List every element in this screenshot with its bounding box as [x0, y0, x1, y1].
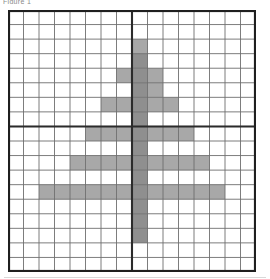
- branch-cell: [132, 39, 148, 54]
- branch-cell: [194, 185, 210, 200]
- trunk-cell: [132, 228, 148, 243]
- branch-cell: [86, 185, 102, 200]
- trunk-cell: [132, 126, 148, 141]
- grid-chart-svg: [8, 10, 256, 272]
- trunk-cell: [132, 83, 148, 98]
- branch-cell: [194, 156, 210, 171]
- branch-cell: [148, 97, 164, 112]
- branch-cell: [117, 126, 133, 141]
- branch-cell: [70, 156, 86, 171]
- figure-root: Figure 1: [0, 0, 270, 279]
- branch-cell: [101, 156, 117, 171]
- trunk-cell: [132, 185, 148, 200]
- branch-cell: [70, 185, 86, 200]
- branch-cell: [117, 185, 133, 200]
- branch-cell: [163, 97, 179, 112]
- branch-cell: [148, 126, 164, 141]
- branch-cell: [86, 126, 102, 141]
- branch-cell: [210, 185, 226, 200]
- trunk-cell: [132, 214, 148, 229]
- branch-cell: [163, 185, 179, 200]
- branch-cell: [179, 156, 195, 171]
- branch-cell: [163, 156, 179, 171]
- trunk-cell: [132, 54, 148, 69]
- branch-cell: [101, 185, 117, 200]
- branch-cell: [117, 68, 133, 83]
- branch-cell: [101, 126, 117, 141]
- branch-cell: [148, 185, 164, 200]
- branch-cell: [86, 156, 102, 171]
- trunk-cell: [132, 199, 148, 214]
- branch-cell: [148, 68, 164, 83]
- trunk-cell: [132, 141, 148, 156]
- trunk-cell: [132, 68, 148, 83]
- branch-cell: [55, 185, 71, 200]
- trunk-cell: [132, 97, 148, 112]
- branch-cell: [148, 156, 164, 171]
- branch-cell: [179, 126, 195, 141]
- trunk-cell: [132, 156, 148, 171]
- branch-cell: [117, 97, 133, 112]
- caption-fragment: Figure 1: [3, 0, 63, 4]
- bottom-divider: [4, 277, 266, 278]
- trunk-cell: [132, 170, 148, 185]
- branch-cell: [39, 185, 55, 200]
- branch-cell: [101, 97, 117, 112]
- branch-cell: [179, 185, 195, 200]
- trunk-cell: [132, 112, 148, 127]
- branch-cell: [163, 126, 179, 141]
- branch-cell: [117, 156, 133, 171]
- grid-plot-area: [8, 10, 256, 272]
- branch-cell: [148, 83, 164, 98]
